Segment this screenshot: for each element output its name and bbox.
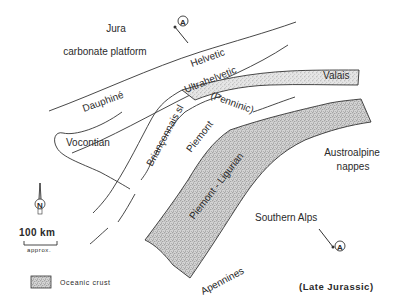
- north-arrow-label: N: [37, 201, 43, 210]
- label-nappes: nappes: [337, 161, 370, 172]
- label-austroalpine: Austroalpine: [324, 147, 380, 158]
- scale-bar-note: approx.: [27, 247, 51, 253]
- paleogeographic-map: A A Jura carbonate platform Helvetic Ult…: [0, 0, 399, 308]
- section-marker-a-label: A: [180, 18, 186, 27]
- boundary-brianconnais-east-dash: [118, 194, 135, 222]
- legend-swatch-oceanic-crust: [31, 276, 51, 288]
- label-apennines: Apennines: [199, 265, 246, 297]
- north-arrow-icon: N: [35, 183, 45, 214]
- boundary-brianconnais-west: [93, 118, 152, 213]
- scale-bar-value: 100 km: [19, 227, 55, 238]
- label-southern-alps: Southern Alps: [255, 212, 317, 223]
- boundary-helvetic-north: [49, 22, 296, 111]
- label-vocontian: Vocontian: [66, 137, 110, 148]
- section-marker-a: A: [174, 16, 189, 43]
- label-valais: Valais: [323, 70, 350, 81]
- legend: Oceanic crust: [31, 276, 111, 288]
- label-brianconnais: Briançonnais sl: [144, 103, 186, 168]
- label-dauphine: Dauphiné: [81, 89, 125, 114]
- label-penninic: (Penninic): [209, 90, 255, 116]
- label-jura: Jura: [106, 23, 126, 34]
- label-carbonate-platform: carbonate platform: [63, 46, 146, 57]
- period-label: (Late Jurassic): [299, 281, 374, 292]
- boundary-brianconnais-west-dash: [90, 228, 108, 244]
- section-marker-a-prime-label: A: [337, 243, 343, 252]
- boundary-piemont-north: [253, 97, 295, 112]
- scale-bar: 100 km approx.: [19, 227, 57, 253]
- boundary-vocontian: [55, 112, 130, 189]
- section-marker-a-prime: A: [319, 229, 345, 252]
- legend-label-oceanic-crust: Oceanic crust: [60, 279, 111, 286]
